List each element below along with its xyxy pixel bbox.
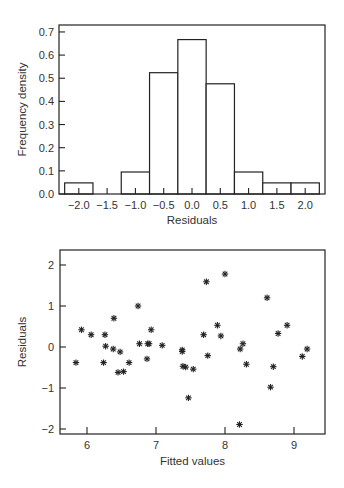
x-tick-label: 9 — [291, 439, 297, 451]
data-point-asterisk — [185, 395, 191, 401]
data-point-asterisk — [78, 327, 84, 333]
data-point-asterisk — [102, 332, 108, 338]
y-tick-label: 0.5 — [39, 72, 54, 84]
data-point-asterisk — [110, 346, 116, 352]
data-point-asterisk — [205, 352, 211, 358]
data-point-asterisk — [115, 369, 121, 375]
x-tick-label: −2.0 — [68, 199, 90, 211]
y-tick-label: −2 — [41, 423, 54, 435]
data-point-asterisk — [111, 315, 117, 321]
data-point-asterisk — [267, 384, 273, 390]
plot-frame — [60, 250, 325, 434]
data-point-asterisk — [148, 327, 154, 333]
data-point-asterisk — [100, 359, 106, 365]
data-point-asterisk — [203, 279, 209, 285]
data-point-asterisk — [144, 356, 150, 362]
data-point-asterisk — [304, 346, 310, 352]
data-point-asterisk — [275, 330, 281, 336]
data-point-asterisk — [299, 353, 305, 359]
y-axis-label: Residuals — [16, 317, 28, 368]
x-tick-label: 2.0 — [298, 199, 313, 211]
data-point-asterisk — [179, 348, 185, 354]
data-point-asterisk — [264, 295, 270, 301]
scatter-chart: 6789210−1−2Fitted valuesResiduals — [0, 240, 344, 488]
x-axis-label: Residuals — [167, 214, 218, 226]
data-point-asterisk — [240, 341, 246, 347]
x-tick-label: −1.0 — [125, 199, 147, 211]
data-point-asterisk — [190, 366, 196, 372]
data-point-asterisk — [236, 421, 242, 427]
y-tick-label: 2 — [48, 259, 54, 271]
data-point-asterisk — [117, 349, 123, 355]
data-point-asterisk — [284, 322, 290, 328]
data-point-asterisk — [270, 363, 276, 369]
x-tick-label: 6 — [84, 439, 90, 451]
y-tick-label: 0 — [48, 341, 54, 353]
y-tick-label: 0.2 — [39, 142, 54, 154]
data-point-asterisk — [159, 342, 165, 348]
data-point-asterisk — [200, 332, 206, 338]
data-point-asterisk — [218, 333, 224, 339]
x-tick-label: 1.0 — [241, 199, 256, 211]
y-tick-label: −1 — [41, 382, 54, 394]
x-tick-label: −0.5 — [153, 199, 175, 211]
y-tick-label: 0.0 — [39, 188, 54, 200]
data-point-asterisk — [120, 368, 126, 374]
data-point-asterisk — [222, 271, 228, 277]
histogram-bar — [206, 84, 234, 194]
histogram-chart: −2.0−1.5−1.0−0.50.00.51.01.52.00.00.10.2… — [0, 0, 344, 240]
x-tick-label: 0.0 — [184, 199, 199, 211]
data-point-asterisk — [126, 359, 132, 365]
data-point-asterisk — [146, 341, 152, 347]
histogram-bar — [150, 73, 178, 194]
y-axis-label: Frequency density — [16, 62, 28, 156]
x-tick-label: 7 — [153, 439, 159, 451]
x-tick-label: −1.5 — [96, 199, 118, 211]
data-point-asterisk — [102, 343, 108, 349]
data-point-asterisk — [88, 332, 94, 338]
x-tick-label: 0.5 — [213, 199, 228, 211]
y-tick-label: 0.7 — [39, 26, 54, 38]
data-point-asterisk — [214, 322, 220, 328]
x-tick-label: 1.5 — [269, 199, 284, 211]
data-point-asterisk — [73, 359, 79, 365]
y-tick-label: 0.4 — [39, 95, 54, 107]
data-point-asterisk — [182, 364, 188, 370]
data-point-asterisk — [243, 361, 249, 367]
data-point-asterisk — [136, 341, 142, 347]
y-tick-label: 0.1 — [39, 165, 54, 177]
y-tick-label: 0.3 — [39, 119, 54, 131]
y-tick-label: 1 — [48, 300, 54, 312]
histogram-bar — [178, 40, 206, 194]
y-tick-label: 0.6 — [39, 49, 54, 61]
x-tick-label: 8 — [222, 439, 228, 451]
x-axis-label: Fitted values — [160, 455, 225, 467]
data-point-asterisk — [135, 303, 141, 309]
